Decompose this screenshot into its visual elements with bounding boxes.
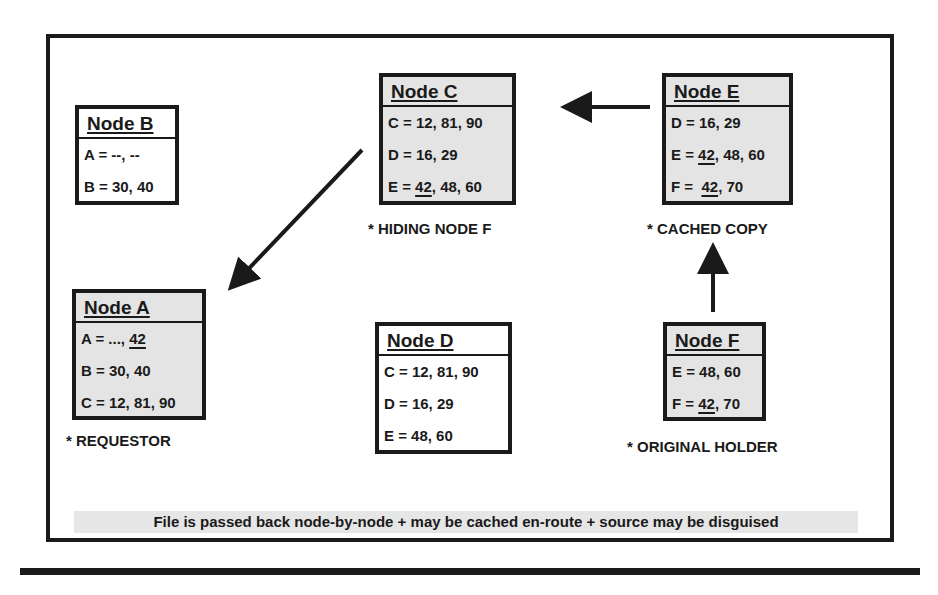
node-c-row: D = 16, 29 — [383, 139, 512, 171]
node-c-note: * HIDING NODE F — [368, 220, 491, 237]
node-c: Node C C = 12, 81, 90 D = 16, 29 E = 42,… — [379, 73, 516, 205]
arrow-c-to-a — [236, 150, 362, 282]
node-a-note: * REQUESTOR — [66, 432, 171, 449]
node-d-row: D = 16, 29 — [379, 388, 508, 420]
node-b-row: B = 30, 40 — [79, 171, 175, 203]
node-e-row: F = 42, 70 — [666, 171, 789, 203]
node-e: Node E D = 16, 29 E = 42, 48, 60 F = 42,… — [662, 73, 793, 205]
node-b-title: Node B — [79, 109, 175, 139]
node-c-row: C = 12, 81, 90 — [383, 107, 512, 139]
node-b-row: A = --, -- — [79, 139, 175, 171]
node-b: Node B A = --, -- B = 30, 40 — [75, 105, 179, 205]
node-c-row: E = 42, 48, 60 — [383, 171, 512, 203]
node-d-row: E = 48, 60 — [379, 420, 508, 452]
node-f: Node F E = 48, 60 F = 42, 70 — [663, 322, 766, 421]
node-a-row: C = 12, 81, 90 — [76, 387, 202, 419]
node-a: Node A A = ..., 42 B = 30, 40 C = 12, 81… — [72, 289, 206, 420]
node-d-title: Node D — [379, 326, 508, 356]
node-f-title: Node F — [667, 326, 762, 356]
node-d-row: C = 12, 81, 90 — [379, 356, 508, 388]
diagram-caption: File is passed back node-by-node + may b… — [74, 511, 858, 533]
node-a-row: B = 30, 40 — [76, 355, 202, 387]
node-f-row: E = 48, 60 — [667, 356, 762, 388]
node-f-row: F = 42, 70 — [667, 388, 762, 420]
node-d: Node D C = 12, 81, 90 D = 16, 29 E = 48,… — [375, 322, 512, 454]
node-c-title: Node C — [383, 77, 512, 107]
node-e-row: E = 42, 48, 60 — [666, 139, 789, 171]
node-e-row: D = 16, 29 — [666, 107, 789, 139]
node-a-title: Node A — [76, 293, 202, 323]
node-a-row: A = ..., 42 — [76, 323, 202, 355]
node-e-title: Node E — [666, 77, 789, 107]
node-e-note: * CACHED COPY — [647, 220, 768, 237]
node-f-note: * ORIGINAL HOLDER — [627, 438, 778, 455]
